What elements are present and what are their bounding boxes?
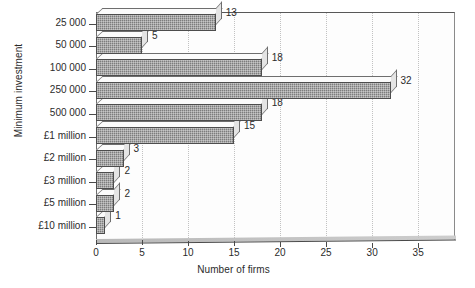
bar-front-face (96, 14, 216, 31)
gridline (372, 13, 373, 240)
bar (96, 82, 391, 99)
y-axis-tick (89, 91, 96, 92)
bar-front-face (96, 104, 262, 121)
y-axis-tick (89, 159, 96, 160)
bar-front-face (96, 172, 114, 189)
bar-front-face (96, 127, 234, 144)
bar-front-face (96, 59, 262, 76)
x-axis-tick-label: 30 (352, 247, 392, 258)
y-axis-tick (89, 24, 96, 25)
x-axis-tick (142, 240, 143, 245)
bar (96, 217, 105, 234)
x-axis-tick (234, 241, 235, 246)
bar-value-label: 18 (272, 97, 283, 108)
bar-value-label: 2 (124, 165, 130, 176)
bar-front-face (96, 195, 114, 212)
x-axis-tick-label: 25 (306, 247, 346, 258)
y-axis-tick (89, 204, 96, 205)
gridline (280, 13, 281, 240)
y-axis-tick (89, 137, 96, 138)
y-axis-tick (89, 182, 96, 183)
bar (96, 172, 114, 189)
bar (96, 37, 142, 54)
bar-value-label: 15 (244, 120, 255, 131)
bar (96, 195, 114, 212)
bar-value-label: 2 (124, 188, 130, 199)
bar-front-face (96, 82, 391, 99)
bar (96, 104, 262, 121)
bar-value-label: 32 (401, 75, 412, 86)
bar (96, 59, 262, 76)
gridline (326, 13, 327, 240)
y-axis-tick (89, 227, 96, 228)
y-axis-tick-label: £10 million (0, 220, 86, 231)
y-axis-title: Minimum investment (13, 1, 24, 181)
x-axis-tick-label: 35 (398, 247, 438, 258)
x-axis-tick-label: 20 (260, 247, 300, 258)
x-axis-tick (188, 241, 189, 246)
bar-value-label: 3 (134, 143, 140, 154)
y-axis-tick (89, 46, 96, 47)
bar-front-face (96, 150, 124, 167)
bar (96, 14, 216, 31)
bar-chart: 05101520253035 25 00050 000100 000250 00… (0, 0, 475, 288)
bar-value-label: 18 (272, 52, 283, 63)
x-axis-tick-label: 15 (214, 247, 254, 258)
bar (96, 150, 124, 167)
x-axis-tick-label: 5 (122, 247, 162, 258)
x-axis-tick-label: 10 (168, 247, 208, 258)
bar-value-label: 1 (115, 210, 121, 221)
bar-front-face (96, 217, 105, 234)
bar-value-label: 5 (152, 30, 158, 41)
x-axis-title: Number of firms (96, 264, 371, 275)
bar-value-label: 13 (226, 7, 237, 18)
bar-front-face (96, 37, 142, 54)
y-axis-tick (89, 69, 96, 70)
bar (96, 127, 234, 144)
y-axis-tick (89, 114, 96, 115)
gridline (418, 13, 419, 240)
y-axis-tick-label: £5 million (0, 197, 86, 208)
x-axis-tick (96, 240, 97, 245)
